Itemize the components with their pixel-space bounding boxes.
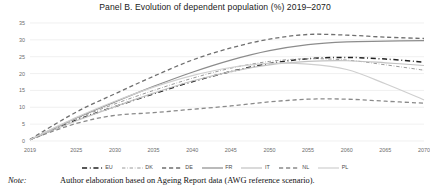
legend-label: FR	[225, 165, 232, 170]
y-axis-tick-label: 35	[19, 20, 25, 26]
legend-item-dk[interactable]: DK	[122, 165, 153, 171]
x-axis-tick-label: 2045	[225, 147, 237, 153]
legend-item-eu[interactable]: EU	[82, 165, 113, 171]
y-axis-tick-label: 25	[19, 54, 25, 60]
legend-item-it[interactable]: IT	[241, 165, 269, 171]
legend-item-fr[interactable]: FR	[202, 165, 233, 171]
legend-label: PL	[342, 165, 349, 170]
y-axis-tick-label: 10	[19, 104, 25, 110]
series-line-pl	[30, 63, 424, 139]
legend-label: NL	[302, 165, 309, 170]
y-axis-tick-label: 20	[19, 71, 25, 77]
series-line-dk	[30, 59, 424, 140]
chart-legend: EUDKDEFRITNLPL	[0, 161, 430, 174]
legend-swatch-pl-icon	[318, 165, 339, 171]
legend-swatch-eu-icon	[82, 165, 103, 171]
legend-label: EU	[105, 165, 113, 170]
legend-item-nl[interactable]: NL	[279, 165, 309, 171]
x-axis-tick-label: 2019	[24, 147, 36, 153]
x-axis-tick-label: 2060	[341, 147, 353, 153]
y-axis-tick-label: 0	[22, 138, 25, 144]
x-axis-tick-label: 2025	[70, 147, 82, 153]
x-axis-tick-label: 2055	[302, 147, 314, 153]
series-line-eu	[30, 57, 424, 139]
x-axis-tick-label: 2040	[186, 147, 198, 153]
x-axis-tick-label: 2065	[379, 147, 391, 153]
legend-swatch-fr-icon	[202, 165, 223, 171]
note-text: Author elaboration based on Ageing Repor…	[60, 176, 428, 185]
legend-label: IT	[265, 165, 270, 170]
legend-swatch-dk-icon	[122, 165, 143, 171]
legend-swatch-it-icon	[241, 165, 262, 171]
legend-label: DE	[185, 165, 193, 170]
y-axis-tick-label: 5	[22, 121, 25, 127]
x-axis-tick-label: 2035	[148, 147, 160, 153]
series-line-fr	[30, 41, 424, 140]
series-line-de	[30, 34, 424, 139]
y-axis-tick-label: 30	[19, 37, 25, 43]
figure-note: Note: Author elaboration based on Ageing…	[8, 176, 428, 185]
legend-swatch-de-icon	[162, 165, 183, 171]
legend-item-pl[interactable]: PL	[318, 165, 348, 171]
x-axis-tick-label: 2070	[418, 147, 430, 153]
legend-item-de[interactable]: DE	[162, 165, 193, 171]
x-axis-tick-label: 2030	[109, 147, 121, 153]
legend-label: DK	[145, 165, 153, 170]
note-label: Note:	[8, 176, 60, 185]
series-line-nl	[30, 99, 424, 140]
y-axis-tick-label: 15	[19, 87, 25, 93]
x-axis-tick-label: 2050	[263, 147, 275, 153]
figure-panel-b: Panel B. Evolution of dependent populati…	[0, 0, 430, 192]
line-chart-plot: 0510152025303520192025203020352040204520…	[0, 0, 430, 160]
legend-swatch-nl-icon	[279, 165, 300, 171]
